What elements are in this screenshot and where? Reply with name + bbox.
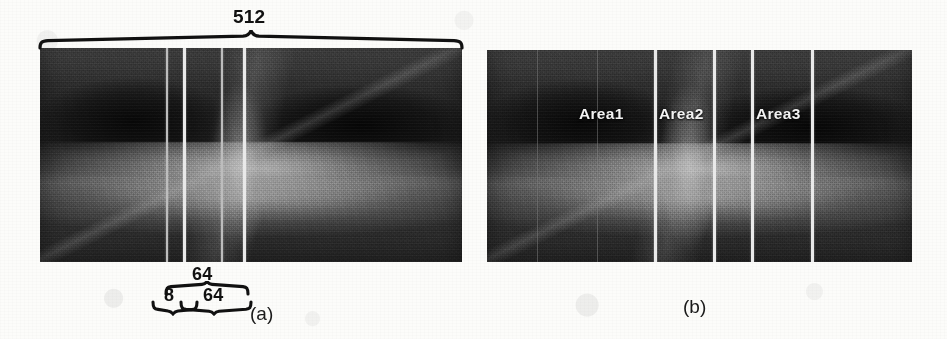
figure-container: 512 64 8 64 (a) Are [0, 0, 947, 339]
panel-a-top-brace [38, 30, 466, 52]
oct-bscan-b [487, 50, 912, 262]
oct-bscan-a [40, 48, 462, 262]
panel-b-area1-label: Area1 [579, 105, 624, 123]
panel-b-artefact-line-2 [597, 50, 598, 262]
panel-b-artefact-line-1 [537, 50, 538, 262]
oct-vignette-a [40, 48, 462, 262]
panel-a-caption: (a) [250, 303, 273, 325]
panel-b-caption: (b) [683, 296, 706, 318]
panel-b-division-line-1 [654, 50, 657, 262]
panel-b-oct-image: Area1 Area2 Area3 [487, 50, 912, 262]
panel-b-division-line-3 [751, 50, 754, 262]
panel-a-division-line-1 [166, 48, 168, 262]
panel-a-bottom-brace-lower-left-label: 8 [164, 285, 174, 306]
panel-a-oct-image [40, 48, 462, 262]
oct-vignette-b [487, 50, 912, 262]
panel-b-division-line-4 [811, 50, 814, 262]
panel-a-top-brace-label: 512 [233, 6, 265, 28]
panel-a-bottom-brace-lower-right-label: 64 [203, 285, 223, 306]
panel-b-area3-label: Area3 [756, 105, 801, 123]
panel-a-division-line-3 [221, 48, 223, 262]
panel-a-bottom-brace-upper-label: 64 [192, 264, 212, 285]
panel-a-division-line-2 [183, 48, 186, 262]
panel-a-division-line-4 [243, 48, 246, 262]
panel-b-division-line-2 [713, 50, 716, 262]
panel-b-area2-label: Area2 [659, 105, 704, 123]
